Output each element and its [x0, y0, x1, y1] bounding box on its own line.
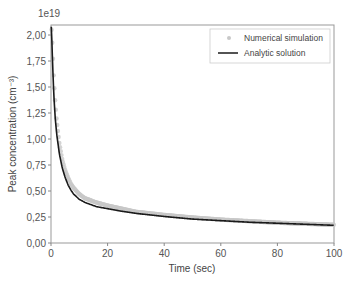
legend-label-analytic: Analytic solution	[244, 48, 306, 58]
y-tick-label: 1,00	[27, 134, 47, 145]
x-tick-label: 100	[326, 248, 343, 259]
x-tick-label: 40	[159, 248, 171, 259]
legend: Numerical simulation Analytic solution	[210, 29, 330, 63]
x-axis-ticks: 020406080100	[48, 243, 343, 259]
y-multiplier-label: 1e19	[38, 8, 61, 19]
y-tick-label: 1,25	[27, 108, 47, 119]
legend-marker-icon	[227, 36, 231, 40]
y-tick-label: 1,50	[27, 82, 47, 93]
x-tick-label: 20	[102, 248, 114, 259]
chart: 0,000,250,500,751,001,251,501,752,00 020…	[0, 0, 351, 284]
y-axis-label: Peak concentration (cm⁻³)	[7, 76, 18, 193]
y-tick-label: 0,50	[27, 186, 47, 197]
y-tick-label: 0,75	[27, 160, 47, 171]
x-tick-label: 0	[48, 248, 54, 259]
y-tick-label: 0,00	[27, 238, 47, 249]
y-tick-label: 2,00	[27, 30, 47, 41]
legend-label-numerical: Numerical simulation	[244, 33, 323, 43]
y-tick-label: 1,75	[27, 56, 47, 67]
x-tick-label: 80	[272, 248, 284, 259]
y-axis-ticks: 0,000,250,500,751,001,251,501,752,00	[27, 30, 51, 249]
x-axis-label: Time (sec)	[169, 263, 216, 274]
x-tick-label: 60	[215, 248, 227, 259]
y-tick-label: 0,25	[27, 212, 47, 223]
